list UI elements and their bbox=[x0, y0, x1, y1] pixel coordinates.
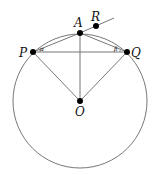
angle-label-beta: β bbox=[113, 45, 118, 53]
geometry-diagram: P A Q R O α β bbox=[0, 0, 155, 182]
label-A: A bbox=[73, 16, 83, 30]
label-Q: Q bbox=[131, 46, 141, 60]
label-O: O bbox=[75, 105, 85, 119]
point-P bbox=[30, 49, 36, 55]
angle-label-alpha: α bbox=[40, 45, 44, 52]
label-P: P bbox=[18, 46, 28, 60]
point-O bbox=[77, 98, 83, 104]
segment-AQ bbox=[80, 33, 127, 52]
point-A bbox=[77, 30, 83, 36]
segment-PO bbox=[33, 52, 80, 101]
point-Q bbox=[124, 49, 130, 55]
segment-QO bbox=[80, 52, 127, 101]
label-R: R bbox=[90, 10, 100, 24]
